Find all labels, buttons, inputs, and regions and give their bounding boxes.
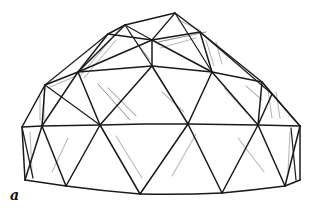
crown-to-upper-struts bbox=[45, 13, 272, 94]
panel-label: a bbox=[10, 188, 19, 202]
figure-panel: a bbox=[0, 0, 321, 212]
geodesic-dome-drawing bbox=[0, 0, 321, 212]
lower-band-triangulation bbox=[22, 124, 300, 194]
base-ring-edges bbox=[25, 180, 300, 194]
